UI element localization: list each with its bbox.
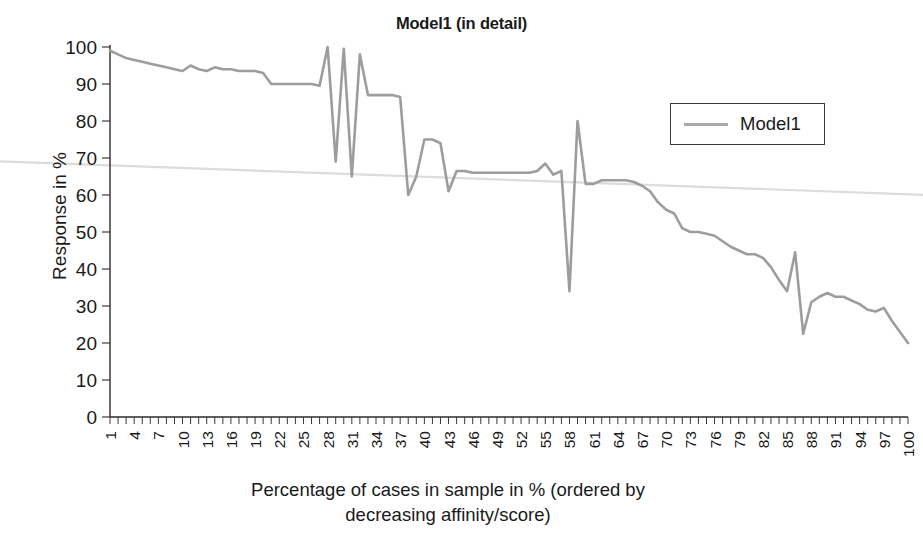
- y-tick-label: 90: [76, 74, 97, 95]
- x-tick-label: 73: [682, 431, 699, 448]
- x-tick-label: 13: [199, 431, 216, 448]
- x-tick-label: 34: [368, 431, 385, 449]
- x-tick-label: 76: [707, 431, 724, 448]
- x-tick-label: 43: [441, 431, 458, 448]
- chart-container: Model1 (in detail) 010203040506070809010…: [0, 0, 923, 551]
- x-tick-label: 67: [634, 431, 651, 448]
- x-tick-label: 97: [876, 431, 893, 448]
- y-tick-label: 60: [76, 185, 97, 206]
- y-tick-label: 70: [76, 148, 97, 169]
- chart-legend: Model1: [670, 103, 825, 145]
- y-tick-label: 20: [76, 333, 97, 354]
- x-tick-label: 58: [561, 431, 578, 448]
- x-tick-label: 40: [416, 431, 433, 449]
- x-axis-title-line2: decreasing affinity/score): [345, 504, 550, 525]
- y-tick-label: 10: [76, 370, 97, 391]
- x-tick-label: 1: [102, 431, 119, 440]
- line-swatch-icon: [684, 123, 728, 126]
- x-tick-label: 64: [610, 431, 627, 449]
- y-tick-label: 50: [76, 222, 97, 243]
- x-tick-label: 28: [320, 431, 337, 448]
- x-tick-label: 4: [126, 431, 143, 440]
- x-tick-label: 46: [465, 431, 482, 448]
- trend-line: [0, 161, 923, 194]
- y-tick-label: 0: [86, 407, 97, 428]
- x-tick-label: 88: [803, 431, 820, 448]
- x-tick-label: 100: [900, 431, 917, 457]
- y-axis-title: Response in %: [49, 116, 71, 316]
- y-tick-label: 40: [76, 259, 97, 280]
- x-tick-label: 61: [586, 431, 603, 448]
- y-tick-label: 80: [76, 111, 97, 132]
- x-axis-title-line1: Percentage of cases in sample in % (orde…: [251, 479, 645, 500]
- x-tick-label: 31: [344, 431, 361, 448]
- x-tick-label: 37: [392, 431, 409, 448]
- x-tick-label: 16: [223, 431, 240, 448]
- x-axis-title: Percentage of cases in sample in % (orde…: [128, 477, 768, 527]
- x-tick-label: 85: [779, 431, 796, 448]
- x-tick-label: 10: [175, 431, 192, 449]
- x-tick-label: 22: [271, 431, 288, 448]
- x-tick-label: 19: [247, 431, 264, 448]
- y-tick-label: 100: [65, 37, 97, 58]
- x-tick-label: 70: [658, 431, 675, 449]
- chart-plot-area: 0102030405060708090100147101316192225283…: [0, 0, 923, 551]
- x-tick-label: 91: [827, 431, 844, 448]
- legend-item-label: Model1: [740, 113, 801, 135]
- x-tick-label: 52: [513, 431, 530, 448]
- x-tick-label: 49: [489, 431, 506, 448]
- x-tick-label: 55: [537, 431, 554, 448]
- x-tick-label: 7: [150, 431, 167, 440]
- x-tick-label: 25: [295, 431, 312, 448]
- series-line-model1: [110, 47, 908, 343]
- x-tick-label: 94: [852, 431, 869, 449]
- x-tick-label: 79: [731, 431, 748, 448]
- x-tick-label: 82: [755, 431, 772, 448]
- y-tick-label: 30: [76, 296, 97, 317]
